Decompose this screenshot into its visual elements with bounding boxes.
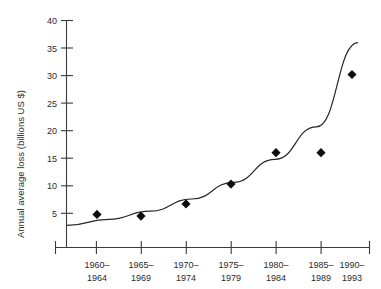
x-tick-label-2-line2: 1974 <box>176 273 196 283</box>
x-tick-label-5-line1: 1985– <box>308 260 333 270</box>
y-axis-title: Annual average loss (billions US $) <box>15 90 26 238</box>
data-point-marker <box>316 148 325 157</box>
y-tick-label-35: 35 <box>47 44 57 54</box>
y-tick-label-40: 40 <box>47 16 57 26</box>
x-tick-label-0-line1: 1960– <box>84 260 109 270</box>
x-tick-label-0-line2: 1964 <box>87 273 107 283</box>
y-tick-label-30: 30 <box>47 71 57 81</box>
y-tick-label-15: 15 <box>47 154 57 164</box>
data-point-markers <box>92 70 356 221</box>
chart-container: Annual average loss (billions US $) 40 3… <box>0 0 381 289</box>
y-tick-label-10: 10 <box>47 181 57 191</box>
data-point-marker <box>271 148 280 157</box>
data-point-marker <box>226 180 235 189</box>
y-tick-label-20: 20 <box>47 126 57 136</box>
x-tick-label-3-line2: 1979 <box>221 273 241 283</box>
y-axis-title-text: Annual average loss (billions US $) <box>15 90 26 238</box>
y-tick-label-5: 5 <box>52 209 57 219</box>
x-tick-label-3-line1: 1975– <box>218 260 243 270</box>
y-tick-label-25: 25 <box>47 99 57 109</box>
x-axis-tick-labels: 1960– 1964 1965– 1969 1970– 1974 1975– 1… <box>84 260 364 283</box>
x-tick-label-6-line2: 1993 <box>342 273 362 283</box>
data-point-marker <box>92 210 101 219</box>
x-tick-label-2-line1: 1970– <box>173 260 198 270</box>
x-tick-label-5-line2: 1989 <box>311 273 331 283</box>
data-point-marker <box>181 199 190 208</box>
x-tick-label-4-line1: 1980– <box>263 260 288 270</box>
annual-average-loss-chart: Annual average loss (billions US $) 40 3… <box>0 0 381 289</box>
x-tick-label-6-line1: 1990– <box>339 260 364 270</box>
x-tick-label-4-line2: 1984 <box>266 273 286 283</box>
x-tick-label-1-line1: 1965– <box>128 260 153 270</box>
data-point-marker <box>347 70 356 79</box>
x-tick-label-1-line2: 1969 <box>131 273 151 283</box>
fitted-trend-curve <box>67 43 358 226</box>
y-axis-tick-labels: 40 35 30 25 20 15 10 5 <box>47 16 57 219</box>
